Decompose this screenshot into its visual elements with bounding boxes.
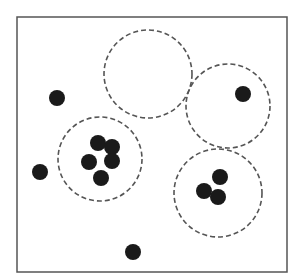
cluster-diagram [0,0,297,279]
data-point-left [81,154,97,170]
data-point-outlier [49,90,65,106]
diagram-frame [17,17,287,272]
data-point-right-top [235,86,251,102]
coverage-circle-left [58,117,142,201]
coverage-circle-top [104,30,192,118]
coverage-circle-right-top [186,64,270,148]
data-point-bottom-right [210,189,226,205]
data-point-left [93,170,109,186]
data-point-outlier [32,164,48,180]
data-point-left [104,153,120,169]
data-points [32,86,251,260]
data-point-bottom-right [212,169,228,185]
data-point-left [104,139,120,155]
data-point-outlier [125,244,141,260]
data-point-left [90,135,106,151]
data-point-bottom-right [196,183,212,199]
coverage-circles [58,30,270,237]
